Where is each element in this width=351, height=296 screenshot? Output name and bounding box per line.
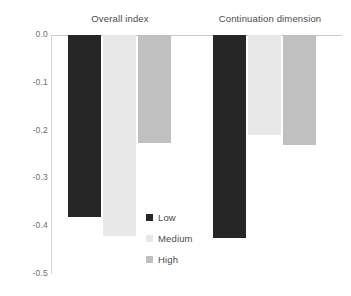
chart-legend: LowMediumHigh [146, 207, 193, 270]
bar-chart: Overall index Continuation dimension 0.0… [0, 0, 351, 296]
bar-high-0 [138, 35, 171, 143]
legend-swatch-icon [146, 256, 153, 263]
legend-item-medium[interactable]: Medium [146, 228, 193, 249]
legend-item-low[interactable]: Low [146, 207, 193, 228]
bar-low-0 [68, 35, 101, 217]
bar-high-1 [283, 35, 316, 145]
legend-label: Medium [158, 233, 193, 244]
bar-medium-1 [248, 35, 281, 135]
bar-low-1 [213, 35, 246, 238]
bar-medium-0 [103, 35, 136, 236]
legend-label: High [158, 254, 178, 265]
legend-label: Low [158, 212, 176, 223]
legend-swatch-icon [146, 214, 153, 221]
legend-swatch-icon [146, 235, 153, 242]
legend-item-high[interactable]: High [146, 249, 193, 270]
